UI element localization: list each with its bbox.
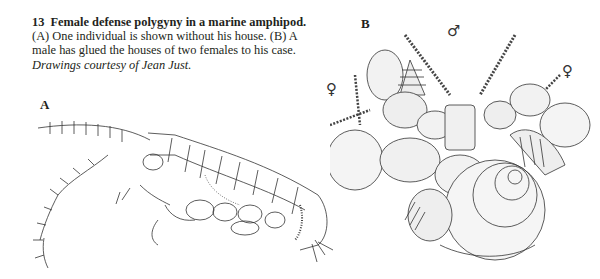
figure-description: (A) One individual is shown without his … xyxy=(32,29,297,57)
figure-credit: Drawings courtesy of Jean Just. xyxy=(32,58,312,72)
figure-title: Female defense polygyny in a marine amph… xyxy=(50,15,306,29)
figure-caption: 13Female defense polygyny in a marine am… xyxy=(32,15,312,72)
amphipod-illustration-a xyxy=(0,110,340,279)
amphipod-case-illustration-b xyxy=(330,15,600,265)
figure-number: 13 xyxy=(32,15,44,29)
